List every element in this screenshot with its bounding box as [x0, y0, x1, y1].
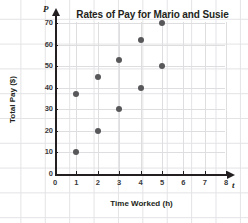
x-tick-label: 8 [219, 179, 233, 187]
data-point [95, 128, 101, 134]
x-tick-mark [226, 171, 227, 174]
x-tick-mark [141, 171, 142, 174]
y-tick-mark [55, 131, 58, 132]
x-tick-mark [98, 171, 99, 174]
scatter-chart: P t Rates of Pay for Mario and Susie 010… [0, 0, 248, 223]
data-point [138, 85, 144, 91]
x-tick-mark [205, 171, 206, 174]
data-point [116, 57, 122, 63]
chart-screenshot: P t Rates of Pay for Mario and Susie 010… [0, 0, 248, 223]
x-tick-label: 4 [134, 179, 148, 187]
x-tick-label: 5 [155, 179, 169, 187]
x-tick-mark [76, 171, 77, 174]
y-tick-mark [55, 23, 58, 24]
x-tick-label: 2 [91, 179, 105, 187]
x-tick-label: 3 [112, 179, 126, 187]
x-tick-mark [119, 171, 120, 174]
x-tick-mark [162, 171, 163, 174]
x-tick-mark [183, 171, 184, 174]
x-tick-label: 0 [48, 179, 62, 187]
x-tick-label: 1 [69, 179, 83, 187]
y-tick-mark [55, 45, 58, 46]
y-axis-label: Total Pay ($) [8, 60, 17, 140]
x-axis-ticks: 012345678 [0, 0, 248, 223]
y-tick-mark [55, 152, 58, 153]
x-axis-label: Time Worked (h) [55, 199, 228, 208]
y-tick-mark [55, 109, 58, 110]
data-point [95, 74, 101, 80]
y-tick-mark [55, 66, 58, 67]
x-tick-label: 7 [198, 179, 212, 187]
data-point [138, 37, 144, 43]
x-tick-label: 6 [176, 179, 190, 187]
y-tick-mark [55, 88, 58, 89]
